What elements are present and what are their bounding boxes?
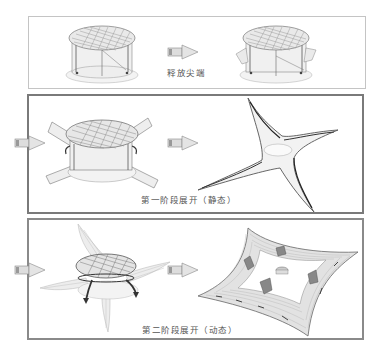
folded-device-figure xyxy=(62,20,142,86)
right-arrow-icon xyxy=(168,44,200,64)
stage-1-caption: 释放尖端 xyxy=(167,66,205,78)
stage-3-caption: 第二阶段展开（动态） xyxy=(142,323,237,335)
four-arm-device-figure xyxy=(40,100,160,190)
right-arrow-icon xyxy=(168,135,200,155)
tips-released-figure xyxy=(234,20,318,86)
stage-2-caption: 第一阶段展开（静态） xyxy=(141,193,236,205)
membrane-unfolding-figure xyxy=(40,222,170,338)
